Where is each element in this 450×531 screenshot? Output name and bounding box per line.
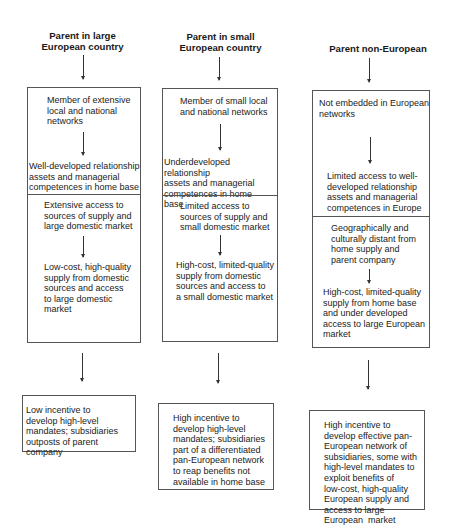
text-line: Not embedded in European bbox=[319, 98, 431, 109]
text-line: assets and managerial bbox=[29, 172, 141, 183]
text-line: High incentive to bbox=[173, 413, 273, 424]
header-line: European country bbox=[163, 42, 278, 53]
box-home-base-large: Member of extensive local and national n… bbox=[27, 87, 141, 343]
text-line: assets and managerial bbox=[164, 178, 278, 189]
text-supply-outcome: High-cost, limited-quality supply from h… bbox=[323, 287, 430, 340]
text-line: Well-developed relationship bbox=[29, 161, 141, 172]
text-supply-outcome: High-cost, limited-quality supply from d… bbox=[176, 260, 278, 302]
text-line: European market bbox=[324, 515, 425, 526]
column-header-small-european: Parent in small European country bbox=[163, 31, 278, 53]
box-outcome-large: Low incentive to develop high-level mand… bbox=[22, 395, 136, 452]
arrow-down-icon bbox=[218, 353, 219, 383]
box-divider bbox=[313, 216, 429, 217]
text-line: Member of small local bbox=[180, 96, 278, 107]
text-line: access to large bbox=[324, 505, 425, 516]
text-line: High-cost, limited-quality bbox=[176, 260, 278, 271]
text-line: access to large European bbox=[323, 319, 430, 330]
text-line: Extensive access to bbox=[44, 200, 140, 211]
text-line: sources and access bbox=[44, 283, 140, 294]
text-line: pan-European network bbox=[173, 455, 273, 466]
text-line: subsidiaries, some with bbox=[324, 452, 425, 463]
text-line: Geographically and bbox=[331, 223, 429, 234]
arrow-down-icon bbox=[83, 55, 84, 79]
text-line: High incentive to bbox=[324, 420, 425, 431]
column-header-non-european: Parent non-European bbox=[318, 43, 438, 54]
arrow-down-icon bbox=[220, 235, 221, 255]
text-relationship-assets: Limited access to well- developed relati… bbox=[327, 171, 430, 213]
arrow-down-icon bbox=[220, 124, 221, 150]
text-line: Low incentive to bbox=[26, 405, 136, 416]
arrow-down-icon bbox=[369, 269, 370, 283]
arrow-down-icon bbox=[83, 132, 84, 155]
text-line: market bbox=[323, 329, 430, 340]
text-line: networks bbox=[319, 109, 431, 120]
text-line: competences in home base bbox=[29, 182, 141, 193]
header-line: Parent non-European bbox=[318, 43, 438, 54]
arrow-down-icon bbox=[370, 137, 371, 163]
header-line: Parent in large bbox=[25, 30, 140, 41]
text-line: European supply and bbox=[324, 494, 425, 505]
text-line: Member of extensive bbox=[47, 95, 142, 106]
text-line: supply from domestic bbox=[176, 271, 278, 282]
text-line: develop high-level bbox=[26, 416, 136, 427]
arrow-down-icon bbox=[83, 236, 84, 257]
text-line: exploit benefits of bbox=[324, 473, 425, 484]
arrow-down-icon bbox=[219, 57, 220, 80]
text-line: networks bbox=[47, 116, 142, 127]
text-line: a small domestic market bbox=[176, 292, 278, 303]
text-supply-access: Geographically and culturally distant fr… bbox=[331, 223, 429, 265]
arrow-down-icon bbox=[368, 360, 369, 389]
text-line: low-cost, high-quality bbox=[324, 484, 425, 495]
box-outcome-non-european: High incentive to develop effective pan-… bbox=[309, 410, 425, 510]
text-supply-access: Limited access to sources of supply and … bbox=[180, 201, 278, 233]
arrow-down-icon bbox=[369, 58, 370, 82]
text-line: to reap benefits not bbox=[173, 466, 273, 477]
text-line: culturally distant from bbox=[331, 234, 429, 245]
text-line: and national networks bbox=[180, 107, 278, 118]
header-line: European country bbox=[25, 41, 140, 52]
text-line: outposts of parent company bbox=[26, 437, 136, 458]
box-divider bbox=[28, 194, 140, 195]
box-home-base-small: Member of small local and national netwo… bbox=[162, 88, 278, 342]
text-line: large domestic market bbox=[44, 221, 140, 232]
text-line: part of a differentiated bbox=[173, 445, 273, 456]
text-line: sources of supply and bbox=[44, 211, 140, 222]
arrow-down-icon bbox=[82, 353, 83, 381]
text-outcome: Low incentive to develop high-level mand… bbox=[26, 405, 136, 458]
text-line: mandates; subsidiaries bbox=[173, 434, 273, 445]
text-line: Underdeveloped relationship bbox=[164, 157, 278, 178]
text-line: to large domestic bbox=[44, 294, 140, 305]
text-line: and under developed bbox=[323, 308, 430, 319]
box-divider bbox=[163, 195, 277, 196]
text-line: sources of supply and bbox=[180, 212, 278, 223]
header-line: Parent in small bbox=[163, 31, 278, 42]
text-network-membership: Not embedded in European networks bbox=[319, 98, 431, 119]
text-outcome: High incentive to develop effective pan-… bbox=[324, 420, 425, 526]
text-line: sources and access to bbox=[176, 281, 278, 292]
text-line: mandates; subsidiaries bbox=[26, 426, 136, 437]
text-line: supply from domestic bbox=[44, 273, 140, 284]
text-line: develop high-level bbox=[173, 424, 273, 435]
text-relationship-assets: Well-developed relationship assets and m… bbox=[29, 161, 141, 193]
text-line: Limited access to well- bbox=[327, 171, 430, 182]
column-header-large-european: Parent in large European country bbox=[25, 30, 140, 52]
text-line: small domestic market bbox=[180, 222, 278, 233]
box-home-base-non-european: Not embedded in European networks Limite… bbox=[312, 90, 430, 348]
text-line: home supply and bbox=[331, 244, 429, 255]
text-line: European network of bbox=[324, 441, 425, 452]
text-line: assets and managerial bbox=[327, 192, 430, 203]
text-outcome: High incentive to develop high-level man… bbox=[173, 413, 273, 487]
text-line: available in home base bbox=[173, 477, 273, 488]
text-line: competences in Europe bbox=[327, 203, 430, 214]
text-network-membership: Member of small local and national netwo… bbox=[180, 96, 278, 117]
text-line: High-cost, limited-quality bbox=[323, 287, 430, 298]
text-network-membership: Member of extensive local and national n… bbox=[47, 95, 142, 127]
text-line: market bbox=[44, 304, 140, 315]
text-line: high-level mandates to bbox=[324, 462, 425, 473]
text-line: supply from home base bbox=[323, 298, 430, 309]
text-supply-outcome: Low-cost, high-quality supply from domes… bbox=[44, 262, 140, 315]
text-supply-access: Extensive access to sources of supply an… bbox=[44, 200, 140, 232]
text-line: Limited access to bbox=[180, 201, 278, 212]
text-line: develop effective pan- bbox=[324, 431, 425, 442]
text-line: local and national bbox=[47, 106, 142, 117]
